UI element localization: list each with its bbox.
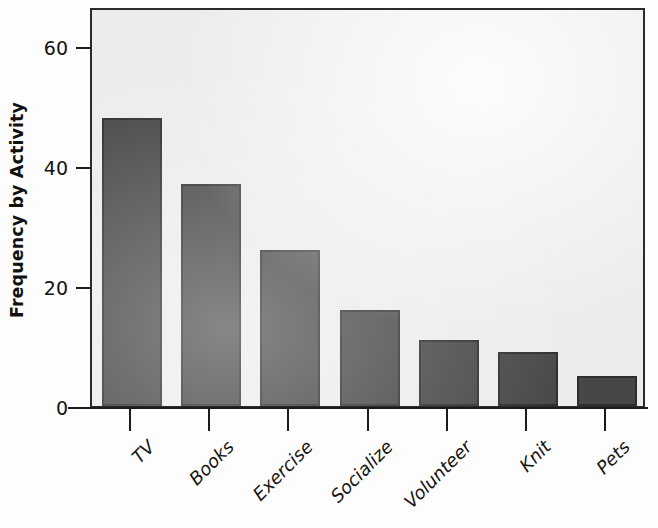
x-axis-tick-mark	[208, 409, 210, 431]
bars-layer	[92, 10, 643, 406]
bar-pets	[577, 376, 637, 406]
x-axis-tick-mark	[525, 409, 527, 431]
x-axis-tick-mark	[129, 409, 131, 431]
y-axis-tick-label: 0	[24, 397, 68, 419]
y-axis-tick-label: 60	[24, 37, 68, 59]
bar-books	[181, 184, 241, 406]
plot-area	[90, 8, 645, 408]
x-axis-tick-label: Pets	[592, 436, 634, 478]
bar-chart-figure: Frequency by Activity 6040200 TVBooksExe…	[0, 0, 658, 528]
y-axis-tick-mark	[76, 47, 90, 49]
x-axis-tick-mark	[446, 409, 448, 431]
bar-exercise	[260, 250, 320, 406]
x-axis-tick-label: Socialize	[326, 436, 397, 507]
bar-socialize	[340, 310, 400, 406]
x-axis-tick-label: Volunteer	[399, 436, 475, 512]
x-axis-tick-label: Books	[185, 436, 238, 489]
x-axis-line	[68, 407, 648, 409]
y-axis-tick-mark	[76, 287, 90, 289]
x-axis-tick-label: Exercise	[249, 436, 317, 504]
x-axis-tick-mark	[604, 409, 606, 431]
bar-volunteer	[419, 340, 479, 406]
x-axis-tick-mark	[367, 409, 369, 431]
y-axis-tick-label: 40	[24, 157, 68, 179]
x-axis-tick-mark	[287, 409, 289, 431]
x-axis-tick-label: Knit	[515, 436, 555, 476]
x-axis-tick-label: TV	[127, 436, 158, 467]
y-axis-tick-mark	[76, 167, 90, 169]
y-axis-tick-label: 20	[24, 277, 68, 299]
bar-tv	[102, 118, 162, 406]
bar-knit	[498, 352, 558, 406]
y-axis-tick-labels: 6040200	[20, 0, 68, 528]
